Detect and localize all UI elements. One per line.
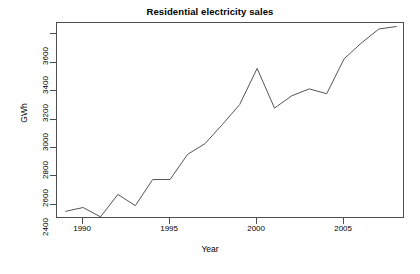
data-series-line (57, 23, 405, 219)
x-tick-label: 2000 (236, 224, 276, 233)
chart-title: Residential electricity sales (0, 6, 420, 17)
x-tick-label: 2005 (323, 224, 363, 233)
x-tick-label: 1995 (149, 224, 189, 233)
chart-figure: Residential electricity sales GWh Year 2… (0, 0, 420, 274)
plot-area (56, 22, 404, 218)
series-polyline (66, 27, 397, 217)
y-axis-title: GWh (19, 83, 29, 143)
x-tick-label: 1990 (62, 224, 102, 233)
x-axis-title: Year (0, 244, 420, 254)
y-tick-label: 3600 (41, 33, 50, 79)
